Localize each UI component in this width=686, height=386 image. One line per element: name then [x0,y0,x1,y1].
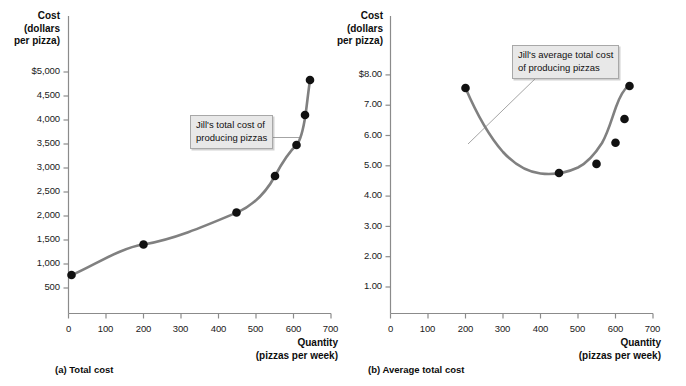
y-tick-label-3000: 3,000 [8,161,60,172]
y-axis-title-line-3: per pizza) [323,35,383,48]
y-tick-label-4: 4.00 [330,189,382,200]
total-cost-data-points [67,76,314,280]
x-tick-label-100: 100 [412,323,443,334]
y-tick-label-8: $8.00 [330,68,382,79]
callout-line-1: Jill's total cost of [196,119,267,132]
y-tick-label-7: 7.00 [330,98,382,109]
x-tick-label-200: 200 [450,323,481,334]
y-tick-label-2500: 2,500 [8,185,60,196]
x-axis-title: Quantity (pizzas per week) [523,337,661,362]
callout-line-2: producing pizzas [196,132,267,145]
y-tick-label-6: 6.00 [330,129,382,140]
y-axis-title: Cost (dollars per pizza) [323,10,383,48]
y-axis-title-line-3: per pizza) [0,35,60,48]
panel-average-total-cost: Cost (dollars per pizza) $8.00 7.00 6.00… [343,0,686,386]
x-tick-label-300: 300 [487,323,518,334]
y-axis-title: Cost (dollars per pizza) [0,10,60,48]
y-axis-title-line-2: (dollars [323,23,383,36]
x-tick-label-0: 0 [53,323,84,334]
y-tick-label-5000: $5,000 [8,65,60,76]
y-tick-label-3: 3.00 [330,220,382,231]
callout-line-2: of producing pizzas [518,62,613,75]
x-axis-title: Quantity (pizzas per week) [200,337,338,362]
y-tick-label-5: 5.00 [330,159,382,170]
x-tick-label-300: 300 [165,323,196,334]
x-tick-label-400: 400 [525,323,556,334]
x-axis-ticks [391,314,654,319]
y-tick-label-1: 1.00 [330,280,382,291]
x-tick-label-700: 700 [637,323,668,334]
x-tick-label-0: 0 [375,323,406,334]
x-tick-label-400: 400 [203,323,234,334]
x-axis-title-line-1: Quantity [200,337,338,350]
y-tick-label-500: 500 [8,281,60,292]
callout-line-1: Jill's average total cost [518,49,613,62]
average-total-cost-curve [466,86,629,174]
x-tick-label-600: 600 [600,323,631,334]
x-tick-label-500: 500 [562,323,593,334]
y-tick-label-2: 2.00 [330,250,382,261]
x-tick-label-500: 500 [240,323,271,334]
panel-b-caption: (b) Average total cost [368,364,464,375]
x-tick-label-600: 600 [278,323,309,334]
x-axis-title-line-2: (pizzas per week) [523,350,661,363]
x-tick-label-200: 200 [128,323,159,334]
x-axis-title-line-1: Quantity [523,337,661,350]
y-axis-ticks [64,72,69,288]
panel-a-caption: (a) Total cost [55,364,113,375]
y-tick-label-4000: 4,000 [8,113,60,124]
panel-total-cost: Cost (dollars per pizza) $5,000 4,500 4,… [0,0,343,386]
x-axis-title-line-2: (pizzas per week) [200,350,338,363]
y-tick-label-3500: 3,500 [8,137,60,148]
y-tick-label-4500: 4,500 [8,89,60,100]
y-axis-title-line-2: (dollars [0,23,60,36]
x-tick-label-700: 700 [315,323,346,334]
callout-leader-line [468,76,538,144]
average-total-cost-callout: Jill's average total cost of producing p… [512,45,619,79]
y-axis-title-line-1: Cost [323,10,383,23]
y-tick-label-2000: 2,000 [8,209,60,220]
total-cost-callout: Jill's total cost of producing pizzas [190,115,273,149]
y-tick-label-1500: 1,500 [8,233,60,244]
y-tick-label-1000: 1,000 [8,257,60,268]
x-tick-label-100: 100 [90,323,121,334]
x-axis-ticks [69,314,332,319]
y-axis-ticks [386,75,391,287]
y-axis-title-line-1: Cost [0,10,60,23]
